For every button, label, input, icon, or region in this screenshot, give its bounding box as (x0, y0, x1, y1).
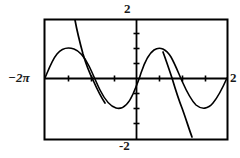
graph-screenshot: 2 -2 −2π 2 (0, 0, 240, 158)
plot-canvas (0, 0, 240, 158)
axis-label-xmax: 2 (230, 71, 237, 84)
axis-label-ymax: 2 (124, 2, 131, 15)
axis-label-xmin: −2π (8, 71, 29, 84)
axis-label-ymin: -2 (119, 139, 130, 152)
